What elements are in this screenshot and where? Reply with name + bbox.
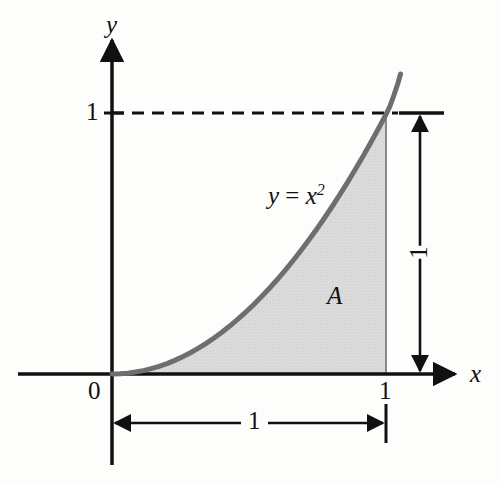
origin-label: 0 xyxy=(88,378,101,403)
equation-lhs: y xyxy=(268,182,279,209)
x-axis-label: x xyxy=(470,361,481,386)
area-region-label: A xyxy=(327,283,342,308)
x-tick-label-one: 1 xyxy=(379,378,392,403)
equation-equals-sign: = xyxy=(279,182,306,209)
equation-exponent: 2 xyxy=(317,181,325,198)
y-axis-label: y xyxy=(106,12,117,37)
curve-equation-label: y = x2 xyxy=(268,182,325,208)
equation-base: x xyxy=(306,182,317,209)
vertical-dimension-label: 1 xyxy=(399,246,438,259)
figure-container: y x 0 1 1 1 1 y = x2 A xyxy=(0,0,500,485)
area-under-curve-fill xyxy=(112,114,386,374)
y-tick-label-one: 1 xyxy=(86,99,99,124)
horizontal-dimension-label: 1 xyxy=(241,408,268,433)
